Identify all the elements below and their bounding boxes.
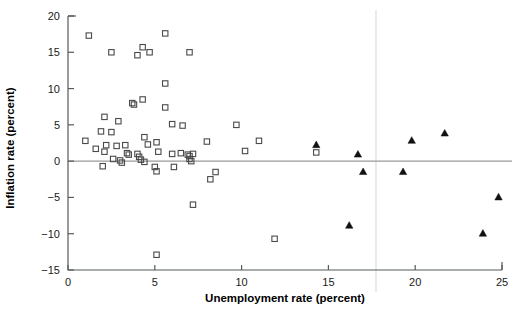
data-point-open-square: [116, 119, 121, 124]
data-point-open-square: [140, 97, 145, 102]
data-point-open-square: [163, 31, 168, 36]
data-point-open-square: [180, 123, 185, 128]
axes: [68, 16, 502, 270]
data-point-filled-triangle: [354, 151, 361, 158]
x-tick-label: 10: [235, 276, 247, 288]
x-axis-title: Unemployment rate (percent): [205, 292, 365, 304]
data-point-open-square: [124, 150, 129, 155]
y-axis-title: Inflation rate (percent): [4, 87, 16, 209]
x-tick-label: 5: [152, 276, 158, 288]
data-point-open-square: [187, 50, 192, 55]
data-series-markers: [83, 31, 503, 258]
y-tick-label: −5: [47, 191, 60, 203]
data-point-open-square: [102, 114, 107, 119]
data-point-filled-triangle: [359, 168, 366, 175]
data-point-open-square: [126, 152, 131, 157]
data-point-filled-triangle: [408, 137, 415, 144]
data-point-filled-triangle: [479, 230, 486, 237]
data-point-open-square: [156, 149, 161, 154]
x-tick-label: 25: [496, 276, 508, 288]
data-point-filled-triangle: [495, 193, 502, 200]
data-point-open-square: [190, 202, 195, 207]
data-point-open-square: [114, 143, 119, 148]
data-point-open-square: [169, 151, 174, 156]
data-point-open-square: [213, 169, 218, 174]
data-point-open-square: [83, 138, 88, 143]
data-point-open-square: [204, 139, 209, 144]
data-point-open-square: [103, 142, 108, 147]
data-point-open-square: [208, 177, 213, 182]
y-tick-label: 20: [48, 10, 60, 22]
y-tick-label: 0: [54, 155, 60, 167]
x-axis-ticks: [68, 265, 502, 270]
data-point-open-square: [130, 100, 135, 105]
data-point-open-square: [234, 122, 239, 127]
data-point-open-square: [272, 236, 277, 241]
data-point-open-square: [178, 150, 183, 155]
y-axis-tick-labels: −15−10−505101520: [41, 10, 60, 276]
data-point-open-square: [145, 142, 150, 147]
data-point-open-square: [98, 129, 103, 134]
data-point-open-square: [163, 81, 168, 86]
data-point-filled-triangle: [346, 222, 353, 229]
data-point-open-square: [163, 105, 168, 110]
data-point-filled-triangle: [313, 141, 320, 148]
plot-canvas: 0510152025 −15−10−505101520 Unemployment…: [0, 0, 514, 318]
data-point-open-square: [154, 252, 159, 257]
data-point-open-square: [154, 140, 159, 145]
x-tick-label: 15: [322, 276, 334, 288]
data-point-open-square: [256, 138, 261, 143]
data-point-open-square: [93, 146, 98, 151]
x-axis-tick-labels: 0510152025: [65, 276, 508, 288]
y-tick-label: −15: [41, 264, 60, 276]
data-point-open-square: [169, 121, 174, 126]
data-point-open-square: [142, 134, 147, 139]
axis-spine-left-bottom: [68, 16, 502, 270]
data-point-open-square: [135, 52, 140, 57]
y-tick-label: −10: [41, 228, 60, 240]
data-point-open-square: [109, 50, 114, 55]
data-point-open-square: [314, 150, 319, 155]
data-point-open-square: [100, 164, 105, 169]
x-tick-label: 0: [65, 276, 71, 288]
data-point-open-square: [171, 164, 176, 169]
scatter-plot-figure: 0510152025 −15−10−505101520 Unemployment…: [0, 0, 514, 318]
data-point-open-square: [147, 50, 152, 55]
data-point-open-square: [140, 45, 145, 50]
data-point-open-square: [123, 142, 128, 147]
y-tick-label: 15: [48, 46, 60, 58]
y-tick-label: 5: [54, 119, 60, 131]
y-axis-ticks: [68, 16, 74, 270]
data-point-open-square: [109, 129, 114, 134]
x-tick-label: 20: [409, 276, 421, 288]
data-point-open-square: [242, 148, 247, 153]
data-point-open-square: [131, 102, 136, 107]
data-point-open-square: [102, 149, 107, 154]
data-point-filled-triangle: [441, 129, 448, 136]
y-tick-label: 10: [48, 83, 60, 95]
data-point-open-square: [86, 33, 91, 38]
data-point-filled-triangle: [399, 168, 406, 175]
